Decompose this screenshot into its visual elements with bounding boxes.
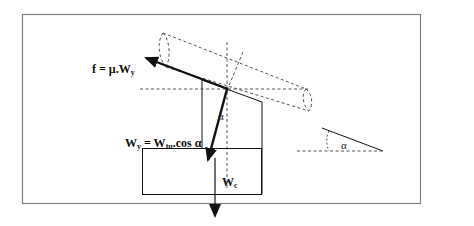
inset-angle-diagram — [297, 128, 383, 151]
weight-component-arrow — [208, 89, 227, 160]
weight-component-label: Wy = Wtu.cos α — [125, 137, 201, 151]
friction-arrow — [146, 58, 228, 89]
counterweight-box — [143, 149, 262, 195]
diagram-svg — [0, 0, 474, 226]
weight-c-label: Wc — [222, 176, 238, 190]
inset-angle-alpha-label: α — [341, 139, 347, 151]
angle-alpha-label: α — [218, 110, 224, 122]
friction-label: f = μ.Wy — [92, 63, 135, 77]
diagram-canvas: f = μ.Wy Wy = Wtu.cos α α Wc α — [0, 0, 474, 226]
